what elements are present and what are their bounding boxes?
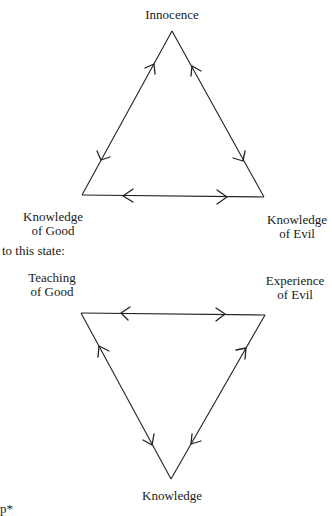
label-knowledge-of-evil: Knowledge of Evil [262, 213, 332, 241]
label-line: of Good [22, 285, 82, 299]
label-line: Knowledge [262, 213, 332, 227]
label-knowledge-text: Knowledge [138, 489, 206, 503]
label-line: of Evil [262, 227, 332, 241]
label-line: of Evil [262, 288, 328, 302]
edge-experience-knowledge [171, 315, 265, 479]
edge-good-evil [82, 195, 264, 197]
arrow-down-icon [143, 434, 154, 445]
footnote-fragment: p* [0, 502, 13, 516]
label-knowledge: Knowledge [138, 489, 206, 503]
label-innocence: Innocence [142, 8, 202, 22]
label-innocence-text: Innocence [142, 8, 202, 22]
bottom-triangle [81, 307, 265, 479]
top-triangle [82, 31, 264, 204]
label-teaching-of-good: Teaching of Good [22, 271, 82, 299]
label-experience-of-evil: Experience of Evil [262, 274, 328, 302]
label-line: of Good [18, 224, 88, 238]
edge-teaching-experience [81, 313, 265, 315]
label-knowledge-of-good: Knowledge of Good [18, 210, 88, 238]
edge-innocence-evil [172, 31, 264, 197]
edge-innocence-good [82, 31, 172, 195]
label-line: Teaching [22, 271, 82, 285]
arrow-up-icon [145, 64, 155, 74]
transition-text: to this state: [2, 244, 65, 258]
label-line: Knowledge [18, 210, 88, 224]
edge-teaching-knowledge [81, 313, 171, 479]
label-line: Experience [262, 274, 328, 288]
